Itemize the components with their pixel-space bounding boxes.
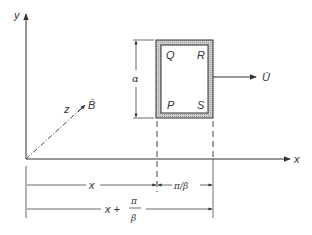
height-dimension: α xyxy=(132,40,154,118)
y-axis-label: y xyxy=(13,9,21,21)
b-field-label: B̄ xyxy=(88,99,95,111)
velocity-label: Ū xyxy=(262,71,270,83)
far-edge-label: x + xyxy=(104,203,121,215)
far-edge-frac-num: π xyxy=(130,196,138,206)
y-axis: y xyxy=(13,9,26,159)
z-axis-line xyxy=(26,106,84,159)
far-edge-dimension: x + π β xyxy=(27,196,212,223)
far-edge-frac-den: β xyxy=(130,213,136,223)
height-label: α xyxy=(132,73,139,84)
loop-in-magnetic-field-diagram: y x z B̄ Q R P S Ū α xyxy=(0,0,312,235)
width-label: π/β xyxy=(173,181,188,191)
z-axis-label: z xyxy=(63,103,70,115)
corner-label-r: R xyxy=(197,49,205,61)
position-dimension: x xyxy=(27,179,156,191)
x-axis-label: x xyxy=(293,153,300,165)
x-axis: x xyxy=(26,153,300,165)
corner-label-s: S xyxy=(197,99,205,111)
width-dimension: π/β xyxy=(158,181,212,191)
b-field-arrow-icon xyxy=(78,105,85,112)
z-axis: z B̄ xyxy=(26,99,95,159)
position-label: x xyxy=(88,179,95,191)
corner-label-p: P xyxy=(167,99,175,111)
corner-label-q: Q xyxy=(166,49,175,61)
velocity-vector: Ū xyxy=(213,71,270,83)
conducting-loop: Q R P S xyxy=(156,40,213,118)
